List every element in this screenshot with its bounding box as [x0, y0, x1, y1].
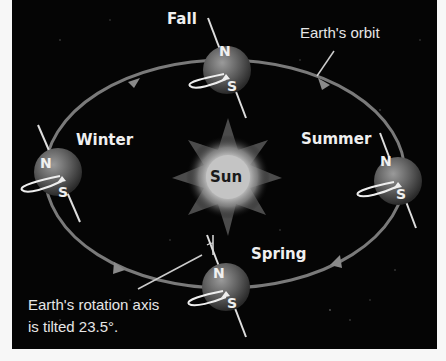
north-label-summer: N: [380, 153, 392, 169]
south-label-winter: S: [58, 184, 68, 200]
north-label-winter: N: [40, 155, 52, 171]
season-label-winter: Winter: [76, 131, 133, 149]
north-label-spring: N: [213, 265, 225, 281]
south-label-spring: S: [227, 295, 237, 311]
axis-note-line2: is tilted 23.5°.: [28, 318, 118, 335]
axis-note-line1: Earth's rotation axis: [28, 296, 159, 313]
south-label-fall: S: [227, 78, 237, 94]
south-label-summer: S: [396, 186, 406, 202]
sun-label: Sun: [210, 168, 242, 186]
north-label-fall: N: [219, 43, 231, 59]
season-label-summer: Summer: [301, 130, 371, 148]
season-label-spring: Spring: [251, 245, 307, 263]
orbit-pointer-line: [317, 51, 334, 76]
earth-fall: [189, 18, 251, 118]
orbit-label: Earth's orbit: [300, 24, 380, 41]
season-label-fall: Fall: [167, 10, 197, 28]
